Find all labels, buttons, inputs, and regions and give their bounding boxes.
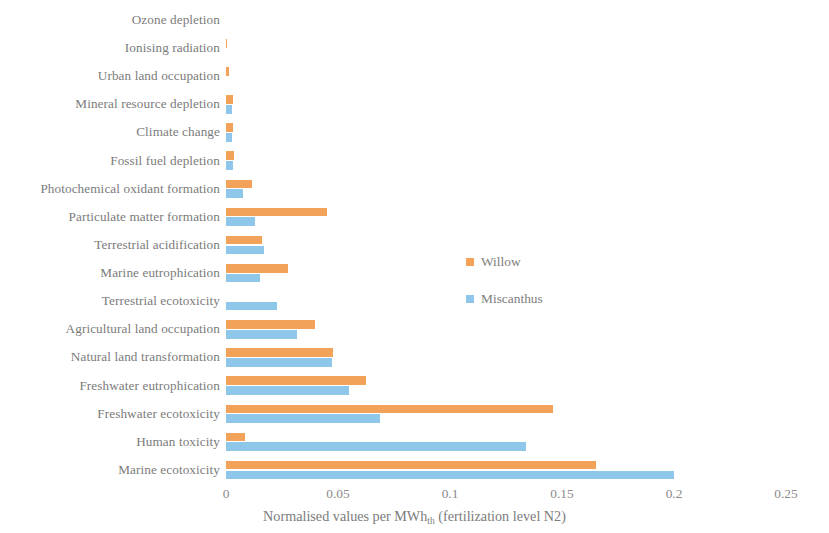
category-label: Natural land transformation <box>71 343 226 371</box>
bar-miscanthus <box>226 330 297 339</box>
bar-miscanthus <box>226 358 332 367</box>
bar-miscanthus <box>226 414 380 423</box>
bar-miscanthus <box>226 274 260 283</box>
bar-willow <box>226 151 234 160</box>
category-label: Terrestrial acidification <box>94 231 226 259</box>
x-axis-title: Normalised values per MWhth (fertilizati… <box>0 508 829 525</box>
bar-group <box>226 203 786 231</box>
category-label: Photochemical oxidant formation <box>40 175 226 203</box>
bar-group <box>226 147 786 175</box>
bar-group <box>226 62 786 90</box>
category-label: Terrestrial ecotoxicity <box>102 287 226 315</box>
bar-group <box>226 456 786 484</box>
bar-group <box>226 175 786 203</box>
bar-willow <box>226 348 333 357</box>
category-label: Climate change <box>136 118 226 146</box>
bar-group <box>226 428 786 456</box>
category-row: Marine ecotoxicity <box>226 456 786 484</box>
category-label: Freshwater ecotoxicity <box>97 400 226 428</box>
category-label: Marine ecotoxicity <box>118 456 226 484</box>
bar-willow <box>226 433 245 442</box>
category-label: Marine eutrophication <box>100 259 226 287</box>
bar-group <box>226 34 786 62</box>
miscanthus-swatch-icon <box>466 295 474 303</box>
x-tick-label: 0.25 <box>774 486 797 502</box>
bar-willow <box>226 67 229 76</box>
chart-legend: Willow Miscanthus <box>466 254 636 328</box>
category-row: Urban land occupation <box>226 62 786 90</box>
category-row: Ozone depletion <box>226 6 786 34</box>
bar-miscanthus <box>226 386 349 395</box>
legend-label-miscanthus: Miscanthus <box>481 291 543 307</box>
bar-willow <box>226 405 553 414</box>
willow-swatch-icon <box>466 258 474 266</box>
category-row: Climate change <box>226 118 786 146</box>
bar-willow <box>226 180 252 189</box>
bar-willow <box>226 123 233 132</box>
bar-willow <box>226 236 262 245</box>
category-row: Mineral resource depletion <box>226 90 786 118</box>
x-axis-title-subscript: th <box>427 516 434 526</box>
bar-miscanthus <box>226 246 264 255</box>
bar-miscanthus <box>226 189 243 198</box>
category-row: Photochemical oxidant formation <box>226 175 786 203</box>
x-axis-title-main: Normalised values per MWh <box>263 508 427 524</box>
category-label: Particulate matter formation <box>69 203 226 231</box>
bar-willow <box>226 39 227 48</box>
category-row: Freshwater eutrophication <box>226 372 786 400</box>
category-row: Human toxicity <box>226 428 786 456</box>
bar-group <box>226 90 786 118</box>
bar-miscanthus <box>226 471 674 480</box>
category-label: Agricultural land occupation <box>66 315 226 343</box>
bar-group <box>226 6 786 34</box>
x-tick-label: 0.05 <box>326 486 349 502</box>
bar-miscanthus <box>226 161 233 170</box>
category-row: Particulate matter formation <box>226 203 786 231</box>
category-row: Natural land transformation <box>226 343 786 371</box>
category-label: Mineral resource depletion <box>75 90 226 118</box>
legend-item-willow: Willow <box>466 254 636 270</box>
category-label: Human toxicity <box>136 428 226 456</box>
bar-willow <box>226 95 233 104</box>
category-label: Urban land occupation <box>98 62 226 90</box>
category-row: Ionising radiation <box>226 34 786 62</box>
bar-group <box>226 400 786 428</box>
category-label: Freshwater eutrophication <box>79 372 226 400</box>
x-axis-title-tail: (fertilization level N2) <box>435 508 566 524</box>
x-axis: 00.050.10.150.20.25 <box>226 484 786 485</box>
bar-group <box>226 118 786 146</box>
bar-miscanthus <box>226 133 232 142</box>
bar-group <box>226 372 786 400</box>
bar-willow <box>226 264 288 273</box>
bar-willow <box>226 461 596 470</box>
x-tick-label: 0.2 <box>666 486 683 502</box>
bar-miscanthus <box>226 217 255 226</box>
bar-miscanthus <box>226 105 232 114</box>
category-row: Freshwater ecotoxicity <box>226 400 786 428</box>
legend-item-miscanthus: Miscanthus <box>466 291 636 307</box>
category-row: Fossil fuel depletion <box>226 147 786 175</box>
x-tick-label: 0 <box>223 486 230 502</box>
x-tick-label: 0.15 <box>550 486 573 502</box>
bar-willow <box>226 208 327 217</box>
bar-miscanthus <box>226 302 277 311</box>
category-label: Fossil fuel depletion <box>110 147 226 175</box>
bar-willow <box>226 376 366 385</box>
category-label: Ozone depletion <box>132 6 226 34</box>
category-label: Ionising radiation <box>125 34 226 62</box>
bar-miscanthus <box>226 442 526 451</box>
x-tick-label: 0.1 <box>442 486 459 502</box>
normalised-impact-bar-chart: Ozone depletionIonising radiationUrban l… <box>0 0 829 533</box>
plot-area: Ozone depletionIonising radiationUrban l… <box>226 6 786 484</box>
legend-label-willow: Willow <box>481 254 521 270</box>
bar-willow <box>226 320 315 329</box>
bar-group <box>226 343 786 371</box>
